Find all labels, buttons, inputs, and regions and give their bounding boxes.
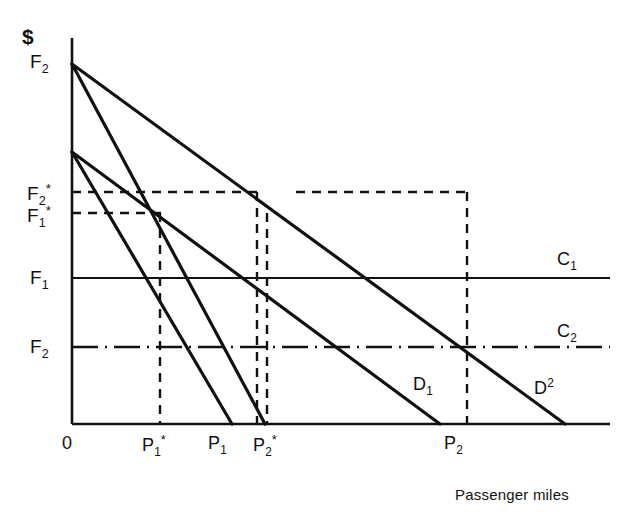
y-label-f2-top-sub: 2 [42, 62, 49, 76]
x-label-p2-sub: 2 [456, 443, 463, 457]
y-label-f2-top-base: F [30, 51, 42, 72]
y-label-f2-lower-base: F [30, 336, 42, 357]
x-label-p1-sub: 1 [220, 443, 227, 457]
x-label-p2: P2 [444, 434, 463, 456]
curve-label-c2: C2 [557, 322, 577, 344]
y-label-f1: F1 [30, 268, 49, 291]
x-axis-caption: Passenger miles [455, 487, 569, 502]
x-label-p1-star: P1* [142, 434, 166, 458]
curve-label-c2-base: C [557, 321, 570, 341]
currency-axis-label: $ [22, 26, 34, 47]
curve-label-c2-sub: 2 [570, 331, 577, 345]
demand-curve-steep-upper [72, 64, 265, 424]
curve-label-c1-sub: 1 [570, 259, 577, 273]
y-label-f1-star-sub: 1 [39, 216, 46, 230]
x-label-p2-star: P2* [253, 434, 277, 458]
x-label-p2-star-mark: * [272, 432, 277, 447]
y-label-f1-star: F1* [27, 204, 51, 230]
y-label-f2-star-base: F [27, 183, 39, 204]
y-label-f2-lower-sub: 2 [42, 347, 49, 361]
curve-label-d2-base: D [534, 378, 547, 398]
demand-curve-d2 [72, 64, 565, 424]
demand-curves [72, 64, 565, 424]
y-label-f1-base: F [30, 267, 42, 288]
plot-canvas [0, 0, 626, 529]
x-label-p2-star-sub: 2 [265, 445, 272, 459]
x-label-p1-star-mark: * [161, 432, 166, 447]
x-label-origin: 0 [62, 434, 72, 452]
y-label-f1-star-mark: * [46, 203, 52, 218]
passenger-miles-diagram: $ F2 F2* F1* F1 F2 0 P1* P1 P2* P2 C1 C2… [0, 0, 626, 529]
curve-label-c1: C1 [557, 250, 577, 272]
x-label-p2-star-base: P [253, 435, 265, 455]
x-label-p1-base: P [208, 433, 220, 453]
y-label-f1-sub: 1 [42, 278, 49, 292]
curve-label-d1: D1 [413, 375, 433, 397]
curve-label-c1-base: C [557, 249, 570, 269]
x-label-p2-base: P [444, 433, 456, 453]
x-label-p1-star-sub: 1 [154, 445, 161, 459]
y-label-f2-top: F2 [30, 52, 49, 75]
x-label-p1: P1 [208, 434, 227, 456]
curve-label-d2: D2 [534, 378, 554, 397]
curve-label-d2-sup: 2 [547, 376, 554, 390]
y-label-f1-star-base: F [27, 205, 39, 226]
curve-label-d1-sub: 1 [426, 384, 433, 398]
y-label-f2-star-mark: * [46, 181, 52, 196]
curve-label-d1-base: D [413, 374, 426, 394]
y-label-f2-lower: F2 [30, 337, 49, 360]
x-label-p1-star-base: P [142, 435, 154, 455]
